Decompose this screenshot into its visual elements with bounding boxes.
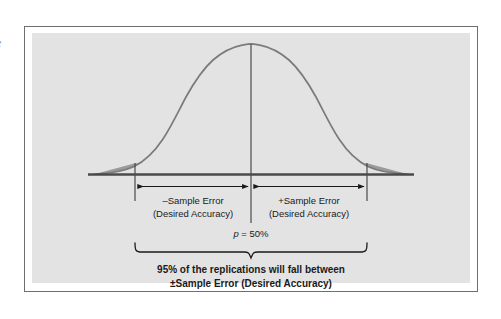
page-margin-glyph: f: [0, 36, 14, 62]
caption-line-1: 95% of the replications will fall betwee…: [157, 264, 345, 275]
mean-probability-rest: = 50%: [239, 228, 269, 239]
mean-probability-label: p = 50%: [232, 228, 269, 239]
left-interval-label-line1: –Sample Error: [162, 195, 223, 206]
right-interval-label-line2: (Desired Accuracy): [269, 208, 349, 219]
left-interval-label-line2: (Desired Accuracy): [153, 208, 233, 219]
normal-distribution-chart: –Sample Error (Desired Accuracy) +Sample…: [24, 26, 478, 292]
confidence-interval-brace: [135, 243, 367, 258]
caption-line-2: ±Sample Error (Desired Accuracy): [170, 278, 332, 289]
figure-page: f –Sample Error (Desired A: [0, 0, 501, 319]
right-interval-label-line1: +Sample Error: [278, 195, 340, 206]
